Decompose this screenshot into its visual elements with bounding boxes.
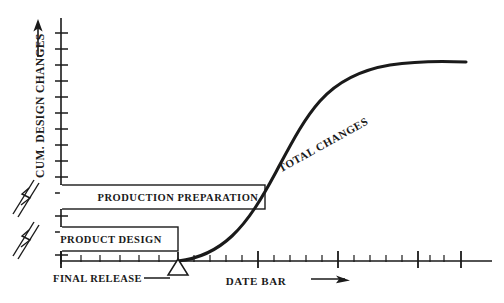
x-axis-major-ticks — [61, 251, 461, 268]
bar-product-design-label: PRODUCT DESIGN — [60, 234, 162, 245]
bar-production-preparation[interactable]: PRODUCTION PREPARATION — [13, 180, 265, 217]
break-symbol-icon-production — [13, 180, 61, 217]
total-changes-curve-group: TOTAL CHANGES — [178, 61, 466, 261]
final-release-milestone[interactable]: FINAL RELEASE — [53, 259, 188, 284]
final-release-label: FINAL RELEASE — [53, 273, 142, 284]
design-changes-diagram: CUM. DESIGN CHANGES — [0, 0, 504, 303]
x-axis-arrow-icon — [311, 276, 350, 284]
bar-product-design[interactable]: PRODUCT DESIGN — [13, 222, 178, 259]
break-symbol-icon-product — [13, 222, 61, 259]
bar-production-preparation-label: PRODUCTION PREPARATION — [98, 192, 259, 203]
x-axis-label: DATE BAR — [226, 275, 287, 287]
y-axis-label: CUM. DESIGN CHANGES — [34, 33, 46, 178]
figure-canvas: CUM. DESIGN CHANGES — [0, 0, 504, 303]
total-changes-curve — [178, 61, 466, 261]
